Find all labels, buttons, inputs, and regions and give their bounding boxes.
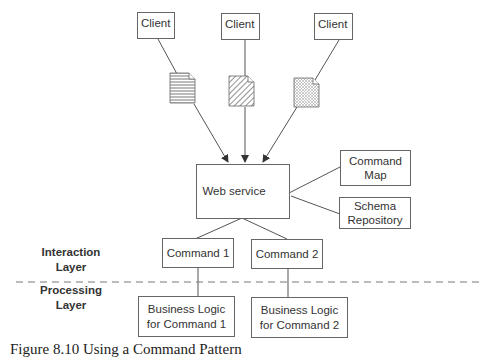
business-logic-1-line2: for Command 1 [147,317,226,331]
business-logic-1-box: Business Logic for Command 1 [138,296,235,337]
schema-repository-line2: Repository [348,213,403,227]
client-box-2: Client [221,13,260,40]
client-box-3: Client [314,13,353,40]
command-map-line1: Command [349,154,402,168]
client-label: Client [318,17,347,31]
interaction-layer-label: Interaction Layer [36,245,106,275]
command-map-box: Command Map [340,150,411,186]
business-logic-1-line1: Business Logic [148,302,225,316]
business-logic-2-box: Business Logic for Command 2 [251,297,348,338]
business-logic-2-line2: for Command 2 [260,318,339,332]
processing-layer-label: Processing Layer [36,283,106,313]
interaction-layer-line1: Interaction [36,245,106,260]
command-2-box: Command 2 [251,239,323,269]
business-logic-2-line1: Business Logic [261,303,338,317]
command-1-box: Command 1 [162,238,234,268]
client-label: Client [141,16,170,30]
command-2-label: Command 2 [256,247,319,261]
interaction-layer-line2: Layer [36,260,106,275]
client-box-1: Client [137,12,175,39]
client-label: Client [225,17,254,31]
processing-layer-line2: Layer [36,298,106,313]
schema-repository-box: Schema Repository [339,197,411,229]
web-service-box: Web service [196,164,290,219]
processing-layer-line1: Processing [36,283,106,298]
schema-repository-line1: Schema [354,199,396,213]
command-map-line2: Map [364,168,386,182]
web-service-label: Web service [202,184,265,198]
figure-caption: Figure 8.10 Using a Command Pattern [10,341,242,358]
command-1-label: Command 1 [167,246,230,260]
